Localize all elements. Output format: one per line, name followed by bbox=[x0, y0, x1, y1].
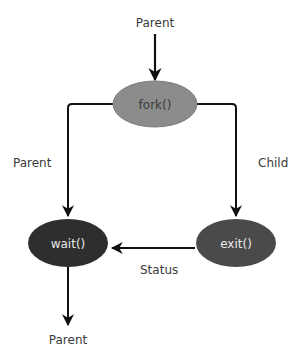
label-status: Status bbox=[140, 263, 178, 277]
label-parent-left: Parent bbox=[13, 156, 52, 170]
node-fork: fork() bbox=[113, 81, 197, 127]
label-parent-bottom: Parent bbox=[49, 333, 88, 347]
process-flow-diagram: Parent Parent Child Status Parent fork()… bbox=[0, 0, 306, 353]
node-wait: wait() bbox=[28, 219, 108, 267]
label-parent-top: Parent bbox=[136, 16, 175, 30]
edge-fork-to-wait bbox=[68, 104, 113, 216]
node-wait-label: wait() bbox=[51, 237, 86, 251]
label-child: Child bbox=[258, 156, 288, 170]
node-exit-label: exit() bbox=[220, 237, 252, 251]
edge-fork-to-exit bbox=[197, 104, 236, 216]
node-fork-label: fork() bbox=[139, 98, 172, 112]
node-exit: exit() bbox=[196, 219, 276, 267]
